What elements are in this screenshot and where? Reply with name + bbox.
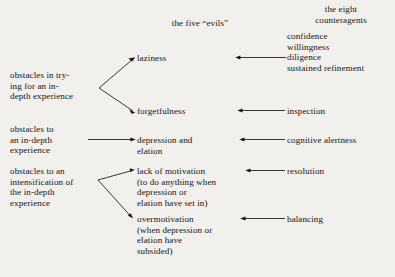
counteragent-resolution-label: resolution (287, 166, 395, 177)
evil-forgetfulness-label: forgetfulness (137, 106, 249, 117)
evil-laziness-label: laziness (137, 53, 249, 64)
obstacle-intensification-label: obstacles to an intensification of the i… (10, 166, 106, 208)
evil-depression-elation-label: depression and elation (137, 135, 249, 156)
counteragent-inspection-label: inspection (287, 106, 395, 117)
obstacle-in-depth-label: obstacles to an in-depth experience (10, 124, 106, 156)
header-eight-counteragents: the eight counteragents (287, 4, 395, 25)
diagram-canvas: the five “evils” the eight counteragents… (0, 0, 395, 277)
header-five-evils: the five “evils” (140, 18, 260, 29)
evil-lack-of-motivation-label: lack of motivation (to do anything when … (137, 166, 253, 208)
obstacle-trying-label: obstacles in try- ing for an in- depth e… (10, 70, 106, 102)
evil-overmotivation-label: overmotivation (when depression or elati… (137, 214, 253, 256)
counteragent-balancing-label: balancing (287, 214, 395, 225)
counteragent-group-1-label: confidence willingness diligence sustain… (287, 31, 395, 73)
counteragent-cognitive-alertness-label: cognitive alertness (287, 135, 395, 146)
